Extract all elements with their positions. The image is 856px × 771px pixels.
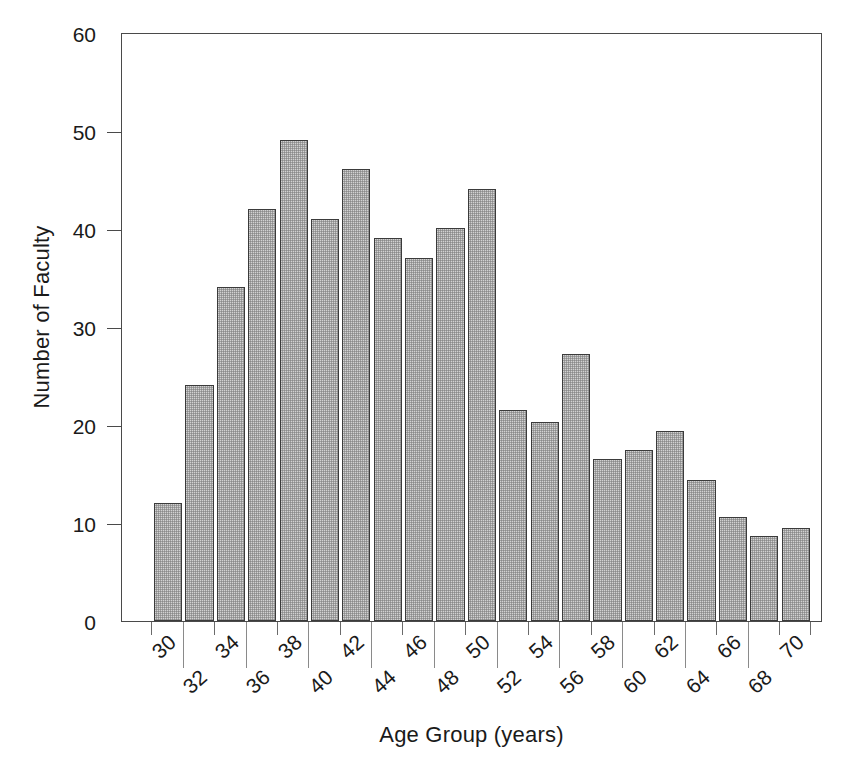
bar	[154, 503, 182, 621]
x-tick-divider	[371, 622, 372, 668]
bar	[593, 459, 621, 621]
x-tick-divider	[246, 622, 247, 668]
x-tick-mark	[402, 622, 403, 635]
x-tick-label: 38	[274, 631, 305, 662]
y-tick-label: 60	[40, 24, 96, 45]
bar	[405, 258, 433, 621]
y-tick-mark	[107, 524, 122, 525]
x-tick-mark	[151, 622, 152, 635]
x-tick-label: 34	[211, 631, 242, 662]
x-tick-label: 40	[305, 666, 336, 697]
x-tick-label: 46	[399, 631, 430, 662]
x-tick-mark	[214, 622, 215, 635]
bar	[499, 410, 527, 621]
x-axis-title: Age Group (years)	[121, 722, 822, 748]
x-tick-divider	[748, 622, 749, 668]
x-tick-label: 60	[619, 666, 650, 697]
x-tick-divider	[685, 622, 686, 668]
x-tick-label: 44	[368, 666, 399, 697]
plot-area	[121, 33, 822, 622]
bar	[562, 354, 590, 621]
x-tick-label: 48	[430, 666, 461, 697]
x-tick-mark	[528, 622, 529, 635]
bar	[750, 536, 778, 621]
x-tick-mark	[810, 622, 811, 635]
bar	[374, 238, 402, 621]
y-tick-label: 20	[40, 416, 96, 437]
x-tick-divider	[497, 622, 498, 668]
x-tick-mark	[779, 622, 780, 635]
x-tick-label: 54	[525, 631, 556, 662]
bar	[687, 480, 715, 621]
y-tick-mark	[107, 132, 122, 133]
x-tick-label: 36	[242, 666, 273, 697]
x-tick-divider	[559, 622, 560, 668]
bar-series	[122, 34, 821, 621]
bar	[280, 140, 308, 621]
x-tick-mark	[340, 622, 341, 635]
y-axis-tick-labels: 0 10 20 30 40 50 60	[34, 0, 96, 771]
x-tick-label: 30	[148, 631, 179, 662]
y-tick-mark	[107, 230, 122, 231]
bar	[531, 422, 559, 621]
x-tick-label: 50	[462, 631, 493, 662]
y-tick-label: 30	[40, 318, 96, 339]
x-tick-mark	[591, 622, 592, 635]
x-tick-divider	[183, 622, 184, 668]
bar	[468, 189, 496, 621]
bar	[782, 528, 810, 621]
bar	[625, 450, 653, 621]
bar	[311, 219, 339, 621]
x-tick-label: 68	[744, 666, 775, 697]
y-tick-label: 10	[40, 514, 96, 535]
bar	[342, 169, 370, 621]
x-tick-label: 42	[336, 631, 367, 662]
x-tick-label: 58	[587, 631, 618, 662]
x-tick-label: 62	[650, 631, 681, 662]
y-tick-mark	[107, 328, 122, 329]
x-tick-label: 52	[493, 666, 524, 697]
x-tick-divider	[622, 622, 623, 668]
x-tick-mark	[465, 622, 466, 635]
x-tick-label: 64	[682, 666, 713, 697]
x-tick-mark	[277, 622, 278, 635]
x-tick-label: 70	[776, 631, 807, 662]
x-tick-mark	[654, 622, 655, 635]
y-tick-mark	[107, 426, 122, 427]
bar	[719, 517, 747, 621]
y-tick-label: 40	[40, 220, 96, 241]
y-tick-label: 0	[40, 612, 96, 633]
y-tick-label: 50	[40, 122, 96, 143]
bar	[185, 385, 213, 621]
x-tick-mark	[716, 622, 717, 635]
x-tick-label: 56	[556, 666, 587, 697]
x-tick-label: 32	[179, 666, 210, 697]
bar	[656, 431, 684, 621]
bar	[248, 209, 276, 621]
bar	[217, 287, 245, 621]
bar	[436, 228, 464, 621]
x-tick-divider	[434, 622, 435, 668]
x-tick-label: 66	[713, 631, 744, 662]
x-tick-divider	[308, 622, 309, 668]
chart-figure: Number of Faculty 0 10 20 30 40 50 60 30…	[0, 0, 856, 771]
